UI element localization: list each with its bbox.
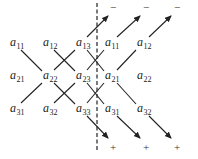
minus-sign: − — [174, 1, 180, 13]
matrix-entry-a11: a11 — [10, 35, 24, 51]
matrix-entry-a21: a21 — [10, 68, 25, 84]
minus-sign: − — [143, 1, 149, 13]
entry-subscript: 32 — [144, 108, 152, 117]
entry-subscript: 31 — [17, 108, 25, 117]
plus-sign: + — [174, 141, 180, 153]
matrix-entry-a31: a31 — [10, 101, 25, 117]
matrix-entry-a22: a22 — [43, 68, 58, 84]
plus-sign: + — [143, 141, 149, 153]
entry-subscript: 22 — [144, 75, 152, 84]
entry-subscript: 12 — [50, 42, 58, 51]
entry-subscript: 11 — [112, 42, 120, 51]
sarrus-diagram: a11a12a13a11a12a21a22a23a21a22a31a32a33a… — [0, 0, 198, 159]
entry-subscript: 11 — [17, 42, 25, 51]
matrix-entry-a13: a13 — [76, 35, 91, 51]
matrix-entry-a33: a33 — [76, 101, 91, 117]
matrix-entry-a21: a21 — [105, 68, 120, 84]
minus-sign: − — [110, 1, 116, 13]
matrix-entry-a32: a32 — [137, 101, 152, 117]
matrix-entry-a32: a32 — [43, 101, 58, 117]
entry-subscript: 13 — [83, 42, 91, 51]
matrix-entry-a22: a22 — [137, 68, 152, 84]
matrix-entry-a31: a31 — [105, 101, 120, 117]
entry-subscript: 33 — [83, 108, 91, 117]
entry-subscript: 23 — [83, 75, 91, 84]
matrix-entry-a23: a23 — [76, 68, 91, 84]
entry-subscript: 12 — [144, 42, 152, 51]
plus-sign: + — [110, 141, 116, 153]
matrix-entry-a12: a12 — [137, 35, 152, 51]
entry-subscript: 22 — [50, 75, 58, 84]
matrix-entry-a12: a12 — [43, 35, 58, 51]
positive-diagonals — [21, 50, 171, 138]
matrix-entries: a11a12a13a11a12a21a22a23a21a22a31a32a33a… — [10, 35, 152, 117]
negative-diagonals — [21, 16, 171, 103]
matrix-entry-a11: a11 — [105, 35, 119, 51]
entry-subscript: 31 — [112, 108, 120, 117]
entry-subscript: 21 — [17, 75, 25, 84]
entry-subscript: 32 — [50, 108, 58, 117]
entry-subscript: 21 — [112, 75, 120, 84]
